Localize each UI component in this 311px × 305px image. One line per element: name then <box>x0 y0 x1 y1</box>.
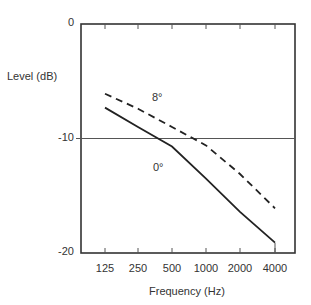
x-axis-label: Frequency (Hz) <box>149 285 225 297</box>
x-tick-2000: 2000 <box>220 262 260 274</box>
y-tick-minus-20: -20 <box>44 245 74 257</box>
chart-plot-area <box>0 0 311 305</box>
series-label-8-degree: 8° <box>152 91 163 103</box>
y-tick-0: 0 <box>44 16 74 28</box>
series-0-degree-line <box>105 108 275 243</box>
y-tick-minus-10: -10 <box>44 131 74 143</box>
series-label-0-degree: 0° <box>153 161 164 173</box>
series-8-degree-line <box>105 94 275 209</box>
y-axis-label: Level (dB) <box>7 70 57 82</box>
x-tick-4000: 4000 <box>255 262 295 274</box>
